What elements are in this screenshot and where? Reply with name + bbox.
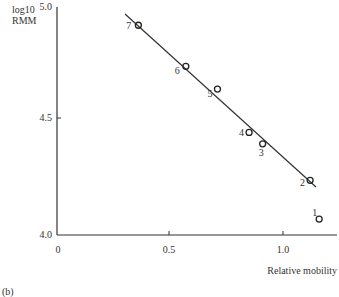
point-label: 7 — [126, 20, 131, 31]
y-axis-label-1: log10 — [12, 4, 35, 15]
y-tick-label: 4.5 — [40, 112, 53, 123]
chart: 4.0 4.5 5.0 0 0.5 1.0 Relative mobility … — [0, 0, 339, 297]
x-tick-label: 0 — [56, 244, 61, 255]
data-points: 1234567 — [126, 20, 322, 222]
x-tick-label: 0.5 — [163, 244, 176, 255]
data-point — [246, 129, 252, 135]
data-point — [214, 86, 220, 92]
point-label: 4 — [239, 127, 244, 138]
point-label: 1 — [312, 207, 317, 218]
y-tick-label: 4.0 — [40, 229, 53, 240]
point-label: 6 — [175, 65, 180, 76]
data-point — [135, 22, 141, 28]
point-label: 2 — [300, 177, 305, 188]
x-axis-label: Relative mobility — [267, 265, 337, 276]
point-label: 5 — [207, 88, 212, 99]
y-tick-label: 5.0 — [40, 1, 53, 12]
point-label: 3 — [259, 147, 264, 158]
x-tick-label: 1.0 — [277, 244, 290, 255]
fit-line — [125, 14, 316, 187]
y-axis-label-2: RMM — [12, 15, 37, 26]
panel-label: (b) — [2, 286, 14, 297]
